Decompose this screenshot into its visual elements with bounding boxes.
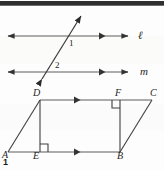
label-angle-1: 1 — [69, 39, 74, 48]
label-line-l: ℓ — [138, 30, 143, 41]
figure-canvas: ℓ m 1 2 A B C D E F 1 — [0, 0, 164, 170]
label-vertex-e: E — [33, 151, 39, 161]
mid-arrow-ab — [74, 149, 81, 156]
mid-arrow-m — [99, 69, 106, 76]
right-angle-mark-f — [112, 100, 120, 108]
mid-arrow-l — [99, 33, 106, 40]
label-vertex-f: F — [115, 88, 121, 98]
figure-number: 1 — [3, 158, 8, 167]
parallel-line-m — [8, 69, 128, 76]
mid-arrow-dc — [74, 97, 81, 104]
label-vertex-b: B — [117, 151, 123, 161]
label-line-m: m — [140, 66, 148, 77]
label-vertex-c: C — [150, 88, 157, 98]
right-angle-mark-e — [40, 144, 48, 152]
transversal-line — [42, 16, 81, 79]
parallelogram-shape — [8, 97, 152, 156]
label-vertex-d: D — [33, 88, 40, 98]
geometry-drawing — [0, 0, 164, 170]
label-angle-2: 2 — [55, 61, 60, 70]
